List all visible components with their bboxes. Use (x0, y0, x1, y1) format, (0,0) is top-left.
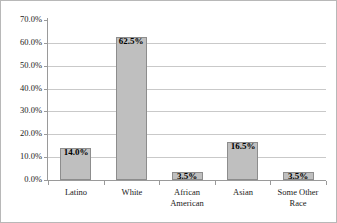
x-axis-category-label: African American (159, 187, 215, 209)
x-axis-category-label: White (104, 187, 160, 198)
x-axis-tick-mark (270, 181, 271, 185)
y-axis-tick-label: 30.0% (2, 106, 42, 115)
y-axis-tick-label: 60.0% (2, 38, 42, 47)
x-axis-tick-mark (159, 181, 160, 185)
bar-data-label: 16.5% (220, 142, 266, 151)
bar-chart: 0.0%10.0%20.0%30.0%40.0%50.0%60.0%70.0% … (0, 0, 337, 223)
y-axis-tick-label: 0.0% (2, 175, 42, 184)
x-axis-tick-mark (326, 181, 327, 185)
y-axis-tick-label: 70.0% (2, 15, 42, 24)
x-axis-tick-mark (215, 181, 216, 185)
y-axis-tick-label: 50.0% (2, 61, 42, 70)
x-axis-tick-mark (48, 181, 49, 185)
y-axis-tick-label: 10.0% (2, 152, 42, 161)
x-axis-category-labels: LatinoWhiteAfrican AmericanAsianSome Oth… (48, 187, 326, 221)
bar-data-label: 3.5% (275, 172, 321, 181)
bar[interactable] (116, 37, 147, 180)
y-axis-tick-label: 20.0% (2, 129, 42, 138)
x-axis-tick-mark (104, 181, 105, 185)
bar-data-label: 62.5% (108, 37, 154, 46)
x-axis-category-label: Latino (48, 187, 104, 198)
y-axis-tick-labels: 0.0%10.0%20.0%30.0%40.0%50.0%60.0%70.0% (1, 1, 42, 223)
x-axis-category-label: Asian (215, 187, 271, 198)
y-axis-tick-label: 40.0% (2, 84, 42, 93)
bar-data-label: 3.5% (164, 172, 210, 181)
bar-data-label: 14.0% (53, 148, 99, 157)
x-axis-category-label: Some Other Race (270, 187, 326, 209)
